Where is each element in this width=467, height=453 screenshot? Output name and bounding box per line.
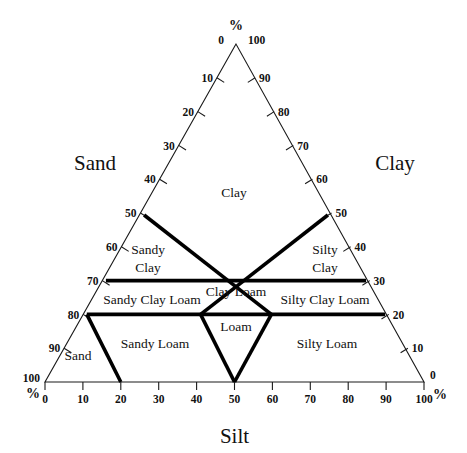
bottom-left-corner-labels: 100 % xyxy=(23,372,41,401)
region-label-loam: Loam xyxy=(220,319,252,334)
corner-label-sand: Sand xyxy=(74,151,117,175)
corner-label-clay: Clay xyxy=(375,151,415,175)
left-tick-label-30: 30 xyxy=(163,140,175,152)
bottom-axis-tick-labels: 0 10 20 30 40 50 60 70 80 90 100 xyxy=(42,393,433,405)
region-label-silty-clay-line2: Clay xyxy=(312,260,338,275)
region-label-sandy-clay-line1: Sandy xyxy=(131,242,165,257)
right-tick-90 xyxy=(248,78,255,83)
right-tick-60 xyxy=(305,179,312,184)
left-tick-label-50: 50 xyxy=(125,207,137,219)
right-tick-label-30: 30 xyxy=(374,275,386,287)
region-label-clay-loam: Clay Loam xyxy=(206,284,267,299)
region-label-sandy-clay-loam: Sandy Clay Loam xyxy=(103,292,201,307)
region-label-silty-clay-loam: Silty Clay Loam xyxy=(280,292,370,307)
bottom-tick-label-10: 10 xyxy=(77,393,89,405)
right-tick-label-60: 60 xyxy=(316,173,328,185)
region-label-silty-clay-line1: Silty xyxy=(312,242,338,257)
right-tick-70 xyxy=(286,145,293,150)
right-tick-label-20: 20 xyxy=(393,309,405,321)
apex-labels: % 0 100 xyxy=(218,18,265,46)
bottom-right-percent-symbol: % xyxy=(433,387,447,402)
bottom-right-zero: 0 xyxy=(430,369,436,381)
region-label-sandy-clay-line2: Clay xyxy=(135,260,161,275)
right-tick-label-50: 50 xyxy=(335,207,347,219)
right-tick-label-10: 10 xyxy=(412,342,424,354)
bottom-tick-label-60: 60 xyxy=(267,393,279,405)
left-tick-30 xyxy=(179,145,186,150)
soil-texture-triangle: 10 20 30 40 50 60 70 80 90 90 80 70 60 5… xyxy=(0,0,467,453)
left-tick-label-40: 40 xyxy=(144,173,156,185)
right-tick-label-80: 80 xyxy=(278,106,290,118)
bottom-left-hundred: 100 xyxy=(23,372,41,384)
left-tick-20 xyxy=(198,112,205,117)
bottom-tick-label-50: 50 xyxy=(229,393,241,405)
left-tick-label-90: 90 xyxy=(49,342,61,354)
ternary-diagram-canvas: 10 20 30 40 50 60 70 80 90 90 80 70 60 5… xyxy=(0,0,467,453)
bottom-tick-label-80: 80 xyxy=(342,393,354,405)
left-tick-40 xyxy=(160,179,167,184)
right-tick-label-90: 90 xyxy=(259,72,271,84)
bottom-tick-label-100: 100 xyxy=(415,393,433,405)
right-axis-tick-labels: 90 80 70 60 50 40 30 20 10 xyxy=(259,72,424,354)
left-tick-label-20: 20 xyxy=(182,106,194,118)
left-tick-label-80: 80 xyxy=(68,309,80,321)
region-label-silty-loam: Silty Loam xyxy=(297,336,358,351)
left-tick-label-10: 10 xyxy=(202,72,214,84)
left-tick-10 xyxy=(217,78,224,83)
right-tick-80 xyxy=(267,112,274,117)
bottom-tick-label-90: 90 xyxy=(380,393,392,405)
left-tick-label-60: 60 xyxy=(106,241,118,253)
bottom-tick-label-30: 30 xyxy=(153,393,165,405)
region-label-sandy-loam: Sandy Loam xyxy=(121,336,190,351)
right-tick-label-40: 40 xyxy=(355,241,367,253)
left-axis-tick-labels: 10 20 30 40 50 60 70 80 90 xyxy=(49,72,214,354)
region-label-clay: Clay xyxy=(221,185,247,200)
apex-left-zero: 0 xyxy=(218,34,224,46)
apex-right-hundred: 100 xyxy=(248,34,266,46)
bottom-tick-label-40: 40 xyxy=(191,393,203,405)
bottom-tick-label-70: 70 xyxy=(305,393,317,405)
region-label-sand: Sand xyxy=(65,348,92,363)
bottom-tick-label-20: 20 xyxy=(115,393,127,405)
left-tick-60 xyxy=(121,247,128,252)
boundary-sand-sandy-loam xyxy=(87,314,121,382)
left-tick-label-70: 70 xyxy=(87,275,99,287)
right-tick-label-70: 70 xyxy=(297,140,309,152)
axis-title-silt: Silt xyxy=(220,424,249,448)
bottom-tick-label-0: 0 xyxy=(42,393,48,405)
apex-percent-symbol: % xyxy=(229,18,243,33)
bottom-right-corner-labels: 0 % xyxy=(430,369,447,402)
bottom-axis-ticks xyxy=(45,382,424,390)
bottom-left-percent-symbol: % xyxy=(26,386,40,401)
